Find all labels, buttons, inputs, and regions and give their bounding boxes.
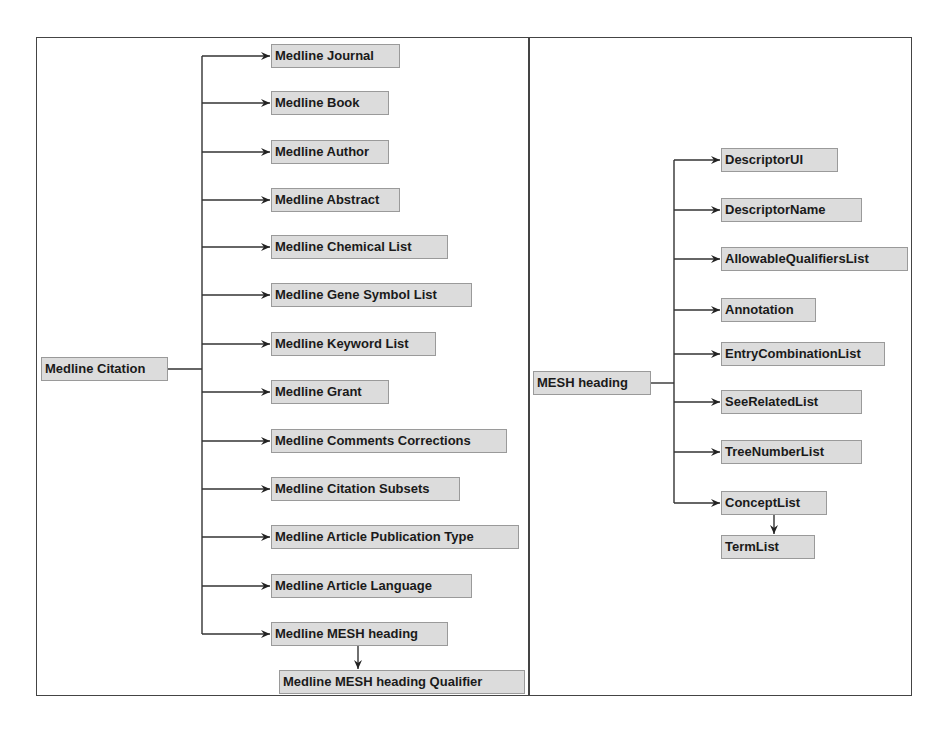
node-medline-article-publication-type: Medline Article Publication Type (271, 525, 519, 549)
node-see-related-list: SeeRelatedList (721, 390, 862, 414)
node-medline-article-language: Medline Article Language (271, 574, 472, 598)
node-medline-gene-symbol-list: Medline Gene Symbol List (271, 283, 472, 307)
node-medline-mesh-heading: Medline MESH heading (271, 622, 448, 646)
node-medline-abstract: Medline Abstract (271, 188, 400, 212)
node-annotation: Annotation (721, 298, 816, 322)
node-concept-list: ConceptList (721, 491, 827, 515)
node-medline-citation-subsets: Medline Citation Subsets (271, 477, 460, 501)
node-mesh-heading: MESH heading (533, 371, 651, 395)
panel-divider (528, 37, 530, 696)
node-term-list: TermList (721, 535, 815, 559)
node-medline-book: Medline Book (271, 91, 389, 115)
node-allowable-qualifiers-list: AllowableQualifiersList (721, 247, 908, 271)
node-medline-chemical-list: Medline Chemical List (271, 235, 448, 259)
node-entry-combination-list: EntryCombinationList (721, 342, 885, 366)
node-tree-number-list: TreeNumberList (721, 440, 862, 464)
node-medline-keyword-list: Medline Keyword List (271, 332, 436, 356)
node-descriptor-name: DescriptorName (721, 198, 862, 222)
node-medline-grant: Medline Grant (271, 380, 389, 404)
node-medline-citation: Medline Citation (41, 357, 168, 381)
node-medline-journal: Medline Journal (271, 44, 400, 68)
node-medline-mesh-heading-qualifier: Medline MESH heading Qualifier (279, 670, 525, 694)
node-descriptor-ui: DescriptorUI (721, 148, 838, 172)
node-medline-comments-corrections: Medline Comments Corrections (271, 429, 507, 453)
node-medline-author: Medline Author (271, 140, 389, 164)
